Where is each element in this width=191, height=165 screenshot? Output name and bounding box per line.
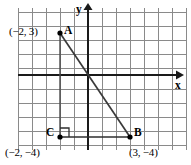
point-B-dot (127, 134, 132, 139)
point-A-dot (57, 30, 62, 35)
y-axis-label: y (76, 3, 82, 15)
point-C-dot (57, 134, 62, 139)
figure-canvas: (−2, 3) A (−2, −4) C (3, −4) B y x (0, 0, 191, 165)
point-A-label: A (64, 24, 72, 36)
point-C-label: C (46, 126, 54, 138)
point-B-label: B (134, 126, 142, 138)
y-axis (84, 3, 93, 150)
point-C-coordinate-label: (−2, −4) (5, 146, 40, 158)
x-axis-label: x (175, 79, 181, 91)
point-A-coordinate-label: (−2, 3) (9, 25, 38, 37)
grid-lines (18, 8, 186, 150)
x-axis (18, 71, 184, 80)
hypotenuse-AB (60, 33, 130, 137)
point-B-coordinate-label: (3, −4) (129, 146, 158, 158)
y-axis-arrow (84, 3, 93, 10)
